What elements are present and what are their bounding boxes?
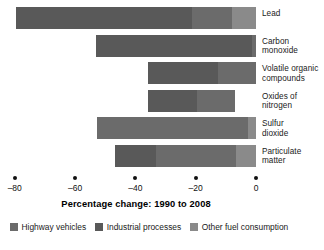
bar-segment[interactable] [218, 62, 256, 84]
bar-segment[interactable] [16, 7, 192, 29]
axis-tick-dot [194, 176, 198, 180]
stacked-bar[interactable] [148, 90, 256, 112]
stacked-bar[interactable] [148, 62, 256, 84]
plot-area: LeadCarbon monoxideVolatile organic comp… [0, 0, 324, 180]
bar-row [0, 62, 324, 84]
bar-segment[interactable] [236, 145, 256, 167]
bar-segment[interactable] [148, 90, 197, 112]
stacked-bar[interactable] [96, 35, 256, 57]
legend-item[interactable]: Other fuel consumption [190, 222, 288, 232]
axis-tick-label: –60 [68, 183, 82, 193]
axis-tick-label: 0 [254, 183, 259, 193]
legend-item[interactable]: Highway vehicles [10, 222, 86, 232]
legend-swatch-icon [190, 223, 198, 231]
axis-tick-label: –40 [128, 183, 142, 193]
bar-segment[interactable] [97, 117, 248, 139]
axis-tick-label: –20 [189, 183, 203, 193]
legend-item[interactable]: Industrial processes [95, 222, 181, 232]
bar-segment[interactable] [148, 62, 218, 84]
axis-tick-dot [254, 176, 258, 180]
x-axis-title: Percentage change: 1990 to 2008 [0, 199, 272, 209]
legend-label: Highway vehicles [22, 222, 87, 232]
bar-segment[interactable] [156, 145, 236, 167]
legend-label: Industrial processes [107, 222, 181, 232]
bar-row [0, 117, 324, 139]
stacked-bar[interactable] [97, 117, 256, 139]
bar-row [0, 145, 324, 167]
stacked-bar[interactable] [16, 7, 256, 29]
bar-row [0, 90, 324, 112]
bar-segment[interactable] [115, 145, 156, 167]
bar-segment[interactable] [252, 35, 256, 57]
bar-segment[interactable] [248, 117, 256, 139]
bar-segment[interactable] [192, 7, 232, 29]
legend-label: Other fuel consumption [202, 222, 289, 232]
bar-segment[interactable] [96, 35, 252, 57]
chart-legend: Highway vehiclesIndustrial processesOthe… [10, 222, 320, 232]
chart-container: LeadCarbon monoxideVolatile organic comp… [0, 0, 324, 250]
bar-row [0, 7, 324, 29]
legend-swatch-icon [95, 223, 103, 231]
bar-segment[interactable] [232, 7, 256, 29]
axis-tick-dot [133, 176, 137, 180]
bar-segment[interactable] [197, 90, 235, 112]
axis-tick-label: –80 [8, 183, 22, 193]
stacked-bar[interactable] [115, 145, 256, 167]
bar-row [0, 35, 324, 57]
axis-tick-dot [73, 176, 77, 180]
axis-tick-dot [13, 176, 17, 180]
legend-swatch-icon [10, 223, 18, 231]
